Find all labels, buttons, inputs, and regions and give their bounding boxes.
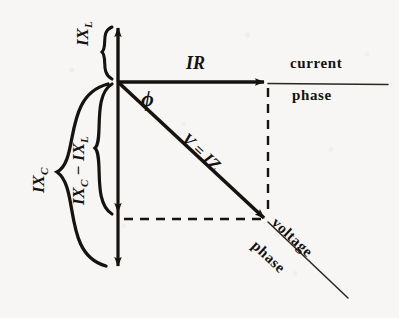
ix-l-label-sub: L <box>82 21 94 28</box>
ix-c-label-sub: C <box>38 168 50 175</box>
ix-c-label: IXC <box>30 168 50 193</box>
current-phase-label-line2: phase <box>292 88 332 103</box>
ix-l-label: IXL <box>74 21 94 46</box>
ix-l-label-main: IX <box>73 28 92 46</box>
ix-difference-label: IXC − IXL <box>70 136 90 205</box>
ix-diff-minus: − IX <box>69 143 88 180</box>
ix-diff-lead-sub: C <box>78 180 90 187</box>
current-phase-axis-line <box>268 84 388 85</box>
ix-diff-lead: IX <box>69 187 88 205</box>
ix-diff-trail-sub: L <box>78 136 90 143</box>
phasor-diagram-figure: IXL IXC − IXL IXC IR ϕ V = IZ current ph… <box>0 0 399 318</box>
ix-diff-brace <box>95 84 112 214</box>
phi-angle-label: ϕ <box>141 88 154 110</box>
ix-c-label-main: IX <box>29 175 48 193</box>
ir-label: IR <box>186 54 205 72</box>
ix-l-brace <box>102 27 112 79</box>
current-phase-label-line1: current <box>290 56 342 71</box>
